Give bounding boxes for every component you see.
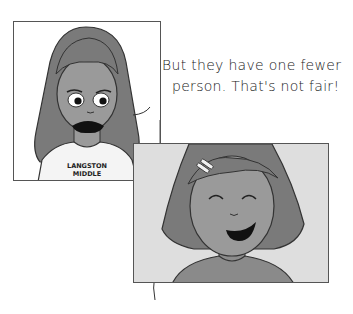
- speech-line-2: person. That's not fair!: [172, 76, 350, 97]
- speech-bubble: But they have one fewer person. That's n…: [160, 55, 350, 97]
- shirt-text-line-1: LANGSTON: [67, 162, 107, 170]
- shirt-text-line-2: MIDDLE: [73, 170, 101, 178]
- bob-hair-girl-illustration: [134, 144, 329, 283]
- speech-line-1: But they have one fewer: [162, 55, 350, 76]
- comic-panel-2: [133, 143, 329, 283]
